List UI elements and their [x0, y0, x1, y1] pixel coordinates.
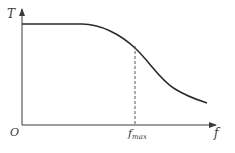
- t-vs-f-diagram: T O f fmax: [0, 0, 235, 153]
- origin-label: O: [10, 126, 19, 139]
- y-axis-label: T: [7, 7, 16, 21]
- fmax-label-sub: max: [132, 133, 147, 141]
- t-curve: [22, 24, 207, 103]
- x-axis-label: f: [213, 126, 221, 140]
- fmax-label: fmax: [127, 127, 147, 141]
